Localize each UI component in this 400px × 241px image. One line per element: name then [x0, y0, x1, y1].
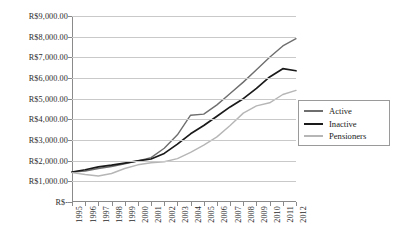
gridline	[72, 99, 296, 100]
y-axis-tick-label: R$7,000.00	[29, 53, 68, 62]
x-axis-tick-label: 2011	[286, 206, 295, 222]
y-axis-tick-label: R$6,000.00	[29, 74, 68, 83]
x-axis-tick-label: 2007	[234, 206, 243, 223]
x-axis-tick-label: 2000	[141, 206, 150, 223]
y-axis-tick-label: R$8,000.00	[29, 32, 68, 41]
y-axis-tick-label: R$1,000.00	[29, 177, 68, 186]
y-axis-tick	[68, 37, 72, 38]
x-axis-tick-label: 2002	[168, 206, 177, 223]
y-axis-tick-label: R$-	[55, 198, 68, 207]
x-axis-tick-label: 2009	[260, 206, 269, 223]
x-axis-tick-label: 1997	[102, 206, 111, 223]
x-axis-tick-label: 1995	[75, 206, 84, 223]
x-axis-tick-label: 1999	[128, 206, 137, 223]
legend-swatch-icon	[304, 110, 323, 112]
series-lines	[72, 16, 296, 202]
plot-area	[72, 16, 296, 202]
y-axis-tick	[68, 16, 72, 17]
gridline	[72, 119, 296, 120]
y-axis-tick	[68, 140, 72, 141]
y-axis-tick-label: R$3,000.00	[29, 136, 68, 145]
y-axis-tick	[68, 99, 72, 100]
legend-item-pensioners[interactable]: Pensioners	[304, 130, 384, 143]
x-axis-labels: 1995199619971998199920002001200220032004…	[72, 206, 296, 241]
line-chart: R$-R$1,000.00R$2,000.00R$3,000.00R$4,000…	[0, 0, 400, 241]
legend-swatch-icon	[304, 123, 323, 125]
gridline	[72, 181, 296, 182]
legend-label: Active	[329, 106, 352, 116]
gridline	[72, 78, 296, 79]
x-axis-tick-label: 2003	[181, 206, 190, 223]
gridline	[72, 161, 296, 162]
legend-item-inactive[interactable]: Inactive	[304, 118, 384, 131]
y-axis-tick	[68, 119, 72, 120]
gridline	[72, 16, 296, 17]
x-axis-tick-label: 1998	[115, 206, 124, 223]
gridline	[72, 140, 296, 141]
gridline	[72, 37, 296, 38]
x-axis-tick-label: 2001	[154, 206, 163, 223]
series-line-inactive	[72, 69, 296, 172]
y-axis-labels: R$-R$1,000.00R$2,000.00R$3,000.00R$4,000…	[0, 0, 68, 241]
y-axis-tick	[68, 181, 72, 182]
y-axis-tick-label: R$2,000.00	[29, 156, 68, 165]
gridline	[72, 57, 296, 58]
y-axis-tick-label: R$4,000.00	[29, 115, 68, 124]
x-axis-tick-label: 2004	[194, 206, 203, 223]
series-line-active	[72, 39, 296, 172]
legend-label: Pensioners	[329, 131, 366, 141]
x-axis-tick	[296, 202, 297, 206]
x-axis-tick-label: 1996	[89, 206, 98, 223]
legend-label: Inactive	[329, 119, 357, 129]
series-line-pensioners	[72, 90, 296, 176]
x-axis-tick-label: 2005	[207, 206, 216, 223]
y-axis-tick	[68, 57, 72, 58]
x-axis-tick-label: 2008	[247, 206, 256, 223]
chart-legend: ActiveInactivePensioners	[298, 100, 390, 146]
legend-swatch-icon	[304, 135, 323, 137]
y-axis-tick-label: R$9,000.00	[29, 12, 68, 21]
y-axis-tick	[68, 78, 72, 79]
x-axis-tick-label: 2010	[273, 206, 282, 223]
x-axis-tick-label: 2006	[220, 206, 229, 223]
y-axis-tick-label: R$5,000.00	[29, 94, 68, 103]
legend-item-active[interactable]: Active	[304, 105, 384, 118]
y-axis-tick	[68, 161, 72, 162]
x-axis-tick-label: 2012	[299, 206, 308, 223]
